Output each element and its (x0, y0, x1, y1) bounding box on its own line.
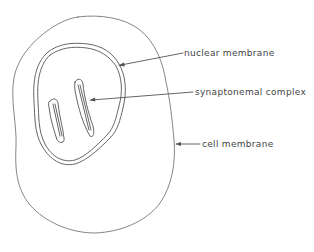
nuclear-membrane-inner (38, 47, 122, 160)
cell-diagram: nuclear membrane synaptonemal complex ce… (0, 0, 314, 252)
label-nuclear-membrane: nuclear membrane (184, 48, 275, 58)
label-synaptonemal-complex: synaptonemal complex (195, 87, 306, 97)
nuclear-membrane-leader (121, 53, 183, 65)
cell-membrane-arrowhead (175, 142, 181, 146)
label-cell-membrane: cell membrane (202, 139, 274, 149)
synaptonemal-strand-right-b (80, 85, 91, 130)
synaptonemal-complex-leader (92, 92, 193, 100)
synaptonemal-complex-arrowhead (89, 98, 95, 102)
nuclear-membrane-outer (34, 43, 126, 164)
cell-membrane-outline (13, 16, 175, 233)
